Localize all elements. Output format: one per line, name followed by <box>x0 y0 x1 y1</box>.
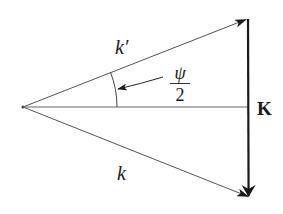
fraction-bar <box>170 83 190 84</box>
k-prime-label: k′ <box>115 37 128 57</box>
k-prime-vector <box>23 20 246 108</box>
angle-label-psi-over-2: ψ 2 <box>170 64 190 104</box>
k-vector <box>23 107 248 197</box>
K-label: K <box>257 99 272 118</box>
angle-pointer-arrow <box>118 77 163 89</box>
angle-arc <box>111 72 118 107</box>
vector-diagram: k′ k K ψ 2 <box>0 0 283 214</box>
k-label: k <box>117 163 126 183</box>
angle-numerator: ψ <box>172 64 187 82</box>
K-vector <box>248 19 249 196</box>
diagram-canvas <box>0 0 283 214</box>
angle-denominator: 2 <box>176 86 185 104</box>
